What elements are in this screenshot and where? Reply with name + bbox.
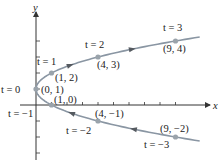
curve-point <box>33 86 38 91</box>
t-label-minus-3: t = −3 <box>144 139 169 150</box>
t-label-1: t = 1 <box>37 56 56 67</box>
coord-label-1-2: (1, 2) <box>55 72 78 84</box>
x-axis-label: x <box>212 100 218 111</box>
y-axis-label: y <box>32 2 38 13</box>
coord-label-4-3: (4, 3) <box>97 59 120 71</box>
curve-point <box>49 70 54 75</box>
coord-label-9-4: (9, 4) <box>163 43 186 55</box>
curve-point <box>173 134 178 139</box>
t-label-minus-1: t = −1 <box>8 108 33 119</box>
curve-point <box>95 118 100 123</box>
t-label-0: t = 0 <box>1 84 20 95</box>
t-label-minus-2: t = −2 <box>66 125 91 136</box>
parametric-curve-diagram: x y t = 3 (9, 4) t = 2 (4, 3) t = 1 (1, … <box>0 0 224 167</box>
coord-label-9-minus-2: (9, −2) <box>160 123 189 135</box>
t-label-2: t = 2 <box>85 39 104 50</box>
direction-arrow-icon <box>67 110 75 117</box>
t-label-3: t = 3 <box>163 22 182 33</box>
coord-label-1-0: (1, 0) <box>54 94 77 106</box>
coord-label-4-minus-1: (4, −1) <box>95 108 124 120</box>
direction-arrow-icon <box>66 62 74 69</box>
